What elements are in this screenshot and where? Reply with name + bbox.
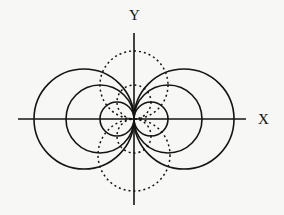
x-axis-label: X <box>258 111 269 127</box>
y-axis-label: Y <box>129 7 140 23</box>
background <box>0 0 284 215</box>
dipole-field-diagram: X Y <box>0 0 284 215</box>
